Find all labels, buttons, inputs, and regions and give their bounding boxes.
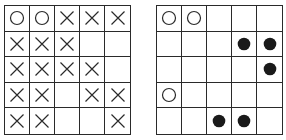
cross-icon [34,36,50,52]
grid-cell-r2-c1 [157,32,182,58]
grid-cell-r2-c2 [182,32,207,58]
left-grid [4,5,131,135]
grid-cell-r1-c3 [207,6,232,32]
open-circle-icon [34,10,50,26]
grid-cell-r5-c2 [30,108,55,134]
cross-icon [9,113,25,129]
grid-cell-r3-c1 [5,57,30,83]
cross-icon [34,61,50,77]
open-circle-icon [161,87,177,103]
grid-cell-r4-c5 [257,83,282,109]
grid-cell-r4-c3 [55,83,80,109]
cross-icon [110,87,126,103]
grid-cell-r3-c4 [80,57,105,83]
grid-cell-r3-c5 [105,57,130,83]
grid-cell-r4-c1 [157,83,182,109]
cross-icon [84,87,100,103]
cross-icon [59,61,75,77]
grid-cell-r2-c1 [5,32,30,58]
cross-icon [34,87,50,103]
grid-cell-r5-c1 [157,108,182,134]
grid-cell-r5-c4 [80,108,105,134]
cross-icon [84,10,100,26]
grid-cell-r2-c2 [30,32,55,58]
grid-cell-r5-c5 [257,108,282,134]
grid-cell-r4-c5 [105,83,130,109]
grid-cell-r2-c3 [55,32,80,58]
filled-dot-icon [262,61,278,77]
grid-cell-r3-c3 [55,57,80,83]
open-circle-icon [9,10,25,26]
grid-cell-r1-c5 [257,6,282,32]
grid-cell-r5-c2 [182,108,207,134]
open-circle-icon [161,10,177,26]
grid-cell-r4-c4 [232,83,257,109]
cross-icon [9,36,25,52]
grid-cell-r2-c4 [232,32,257,58]
grid-cell-r5-c4 [232,108,257,134]
grid-cell-r3-c4 [232,57,257,83]
cross-icon [110,113,126,129]
grid-cell-r2-c3 [207,32,232,58]
grid-cell-r5-c5 [105,108,130,134]
grid-cell-r3-c1 [157,57,182,83]
grid-cell-r2-c4 [80,32,105,58]
grid-cell-r5-c3 [207,108,232,134]
grid-cell-r4-c3 [207,83,232,109]
open-circle-icon [186,10,202,26]
cross-icon [9,61,25,77]
grid-cell-r1-c5 [105,6,130,32]
cross-icon [34,113,50,129]
grid-cell-r4-c2 [182,83,207,109]
grid-cell-r1-c2 [30,6,55,32]
grid-cell-r5-c3 [55,108,80,134]
grid-cell-r3-c3 [207,57,232,83]
cross-icon [59,10,75,26]
grid-cell-r4-c4 [80,83,105,109]
grid-cell-r1-c3 [55,6,80,32]
cross-icon [110,10,126,26]
cross-icon [59,36,75,52]
grid-cell-r3-c2 [30,57,55,83]
grid-cell-r1-c1 [157,6,182,32]
grid-cell-r1-c1 [5,6,30,32]
right-grid [156,5,283,135]
grid-cell-r2-c5 [257,32,282,58]
grid-cell-r2-c5 [105,32,130,58]
grid-cell-r4-c2 [30,83,55,109]
filled-dot-icon [211,113,227,129]
grid-cell-r4-c1 [5,83,30,109]
filled-dot-icon [236,113,252,129]
cross-icon [84,61,100,77]
filled-dot-icon [262,36,278,52]
grid-cell-r1-c4 [232,6,257,32]
grid-cell-r5-c1 [5,108,30,134]
cross-icon [9,87,25,103]
filled-dot-icon [236,36,252,52]
grid-cell-r3-c5 [257,57,282,83]
grid-cell-r1-c2 [182,6,207,32]
grid-cell-r1-c4 [80,6,105,32]
grid-cell-r3-c2 [182,57,207,83]
